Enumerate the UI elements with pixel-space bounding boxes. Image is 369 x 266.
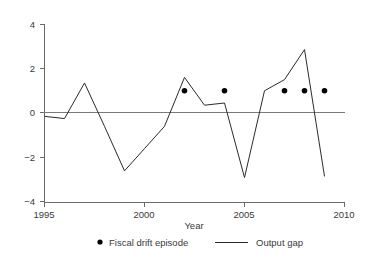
fiscal-drift-markers bbox=[182, 88, 328, 94]
x-tick-label-1995: 1995 bbox=[33, 209, 54, 220]
output-gap-series-line bbox=[45, 50, 325, 178]
fiscal-drift-marker bbox=[302, 88, 308, 94]
y-tick-label-4: 4 bbox=[30, 19, 35, 30]
y-tick-label-2: 2 bbox=[30, 63, 35, 74]
fiscal-drift-marker bbox=[182, 88, 188, 94]
fiscal-drift-marker bbox=[222, 88, 228, 94]
y-tick-label-0: 0 bbox=[30, 107, 35, 118]
legend-label-fiscal-drift: Fiscal drift episode bbox=[109, 237, 188, 248]
x-tick-label-2005: 2005 bbox=[233, 209, 254, 220]
x-tick-label-2000: 2000 bbox=[133, 209, 154, 220]
legend-dot-icon bbox=[97, 239, 102, 244]
chart-figure: 4 2 0 −2 −4 1995 2000 2005 2010 Year Fis… bbox=[0, 0, 369, 266]
output-gap-line-chart: 4 2 0 −2 −4 1995 2000 2005 2010 Year Fis… bbox=[0, 0, 369, 266]
x-tick-label-2010: 2010 bbox=[333, 209, 354, 220]
x-axis-title: Year bbox=[184, 220, 203, 231]
legend-label-output-gap: Output gap bbox=[256, 237, 303, 248]
y-tick-label-neg4: −4 bbox=[24, 196, 35, 207]
y-tick-label-neg2: −2 bbox=[24, 152, 35, 163]
fiscal-drift-marker bbox=[282, 88, 288, 94]
fiscal-drift-marker bbox=[322, 88, 328, 94]
